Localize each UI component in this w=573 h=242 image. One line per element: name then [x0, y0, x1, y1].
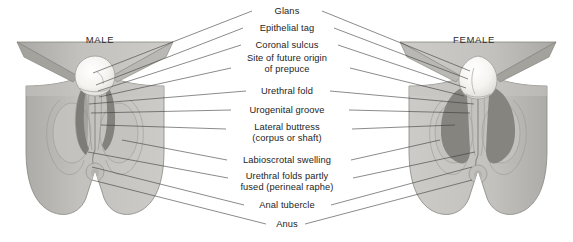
label-text: Epithelial tag: [260, 23, 315, 34]
diagram-canvas: MALE FEMALE GlansEpithelial tagCoronal s…: [0, 0, 573, 242]
label-text: Labioscrotal swelling: [243, 155, 331, 166]
label-text: Site of future origin: [212, 53, 362, 64]
male-glans: [75, 56, 115, 96]
label-urethral-fold: Urethral fold: [261, 86, 313, 97]
label-coronal-sulcus: Coronal sulcus: [256, 40, 319, 51]
label-text: Urethral folds partly: [212, 171, 362, 182]
label-anal-tubercle: Anal tubercle: [259, 200, 315, 211]
label-anus: Anus: [276, 219, 298, 230]
label-text: Glans: [275, 6, 300, 17]
label-glans: Glans: [275, 6, 300, 17]
female-anus: [474, 171, 482, 180]
male-figure: [17, 42, 173, 216]
label-text: Urethral fold: [261, 86, 313, 97]
male-title: MALE: [86, 34, 115, 45]
male-anus: [91, 169, 99, 178]
label-site-of-future-origin-of-prepuce: Site of future originof prepuce: [212, 53, 362, 75]
label-text: Lateral buttress: [212, 122, 362, 133]
female-figure: [400, 42, 556, 216]
label-urogenital-groove: Urogenital groove: [249, 105, 324, 116]
male-anal-tubercle: [86, 163, 104, 181]
label-lateral-buttress: Lateral buttress(corpus or shaft): [212, 122, 362, 144]
label-text: Anus: [276, 219, 298, 230]
label-text-line2: fused (perineal raphe): [212, 182, 362, 193]
label-labioscrotal-swelling: Labioscrotal swelling: [243, 155, 331, 166]
label-text: Anal tubercle: [259, 200, 315, 211]
label-text: Urogenital groove: [249, 105, 324, 116]
label-urethral-folds-partly-fused: Urethral folds partlyfused (perineal rap…: [212, 171, 362, 193]
label-text: Coronal sulcus: [256, 40, 319, 51]
label-epithelial-tag: Epithelial tag: [260, 23, 315, 34]
female-title: FEMALE: [453, 34, 495, 45]
label-text-line2: of prepuce: [212, 64, 362, 75]
label-text-line2: (corpus or shaft): [212, 133, 362, 144]
